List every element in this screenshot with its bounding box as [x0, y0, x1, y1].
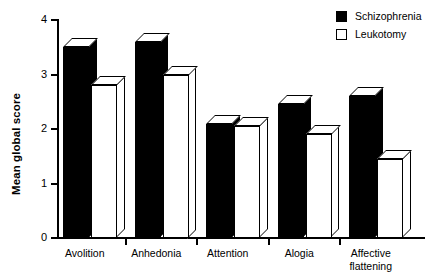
- bar-schizophrenia-2: [206, 115, 232, 238]
- legend-swatch-open: [336, 29, 347, 40]
- y-axis-tick: [51, 128, 58, 130]
- x-axis-category-label: Affective flattening: [337, 247, 405, 272]
- bar-leukotomy-3: [306, 125, 332, 238]
- bar-front-face: [163, 75, 189, 239]
- legend-label: Leukotomy: [355, 28, 406, 40]
- y-axis-tick: [51, 74, 58, 76]
- bar-leukotomy-4: [377, 150, 403, 238]
- bar-schizophrenia-4: [349, 87, 375, 238]
- x-axis-category-label: Attention: [194, 247, 262, 260]
- bar-front-face: [306, 134, 332, 238]
- bar-front-face: [278, 104, 304, 238]
- bar-front-face: [91, 85, 117, 238]
- y-axis-tick-label: 2: [30, 122, 47, 134]
- legend-swatch-filled: [336, 11, 347, 22]
- bar-leukotomy-0: [91, 76, 117, 238]
- x-axis-tick: [339, 239, 341, 245]
- legend-label: Schizophrenia: [355, 10, 422, 22]
- y-axis-tick: [51, 237, 58, 239]
- x-axis-category-label: Avolition: [51, 247, 119, 260]
- bar-front-face: [135, 42, 161, 238]
- x-axis-tick: [196, 239, 198, 245]
- bar-front-face: [63, 47, 89, 238]
- x-axis-tick: [268, 239, 270, 245]
- y-axis-tick: [51, 183, 58, 185]
- bar-front-face: [349, 96, 375, 238]
- bar-leukotomy-1: [163, 66, 189, 239]
- bar-schizophrenia-0: [63, 38, 89, 238]
- y-axis-tick-label: 0: [30, 231, 47, 243]
- bar-front-face: [206, 124, 232, 238]
- x-axis-tick: [125, 239, 127, 245]
- bar-schizophrenia-1: [135, 33, 161, 238]
- bar-leukotomy-2: [234, 117, 260, 238]
- legend-item: Leukotomy: [336, 28, 422, 40]
- y-axis-tick-label: 3: [30, 68, 47, 80]
- bar-front-face: [377, 159, 403, 238]
- bar-chart: Mean global score 43210AvolitionAnhedoni…: [0, 0, 432, 276]
- bar-front-face: [234, 126, 260, 238]
- bar-schizophrenia-3: [278, 95, 304, 238]
- y-axis-tick-label: 4: [30, 13, 47, 25]
- x-axis-category-label: Anhedonia: [123, 247, 191, 260]
- y-axis-tick-label: 1: [30, 177, 47, 189]
- legend-item: Schizophrenia: [336, 10, 422, 22]
- x-axis-category-label: Alogia: [266, 247, 334, 260]
- legend: SchizophreniaLeukotomy: [336, 10, 422, 46]
- y-axis-tick: [51, 19, 58, 21]
